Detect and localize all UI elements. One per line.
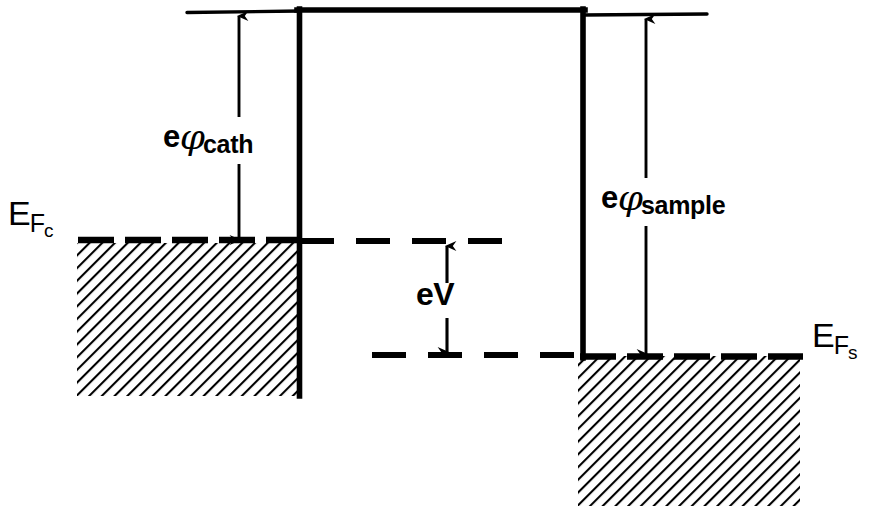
work-function-sample-prefix: e [601,180,618,215]
fermi-level-cathode-label: EFc [8,196,55,230]
vacuum-level-right-line [583,14,707,15]
fermi-level-sample-label: EFs [812,318,859,352]
bias-voltage-label: eV [416,278,454,310]
work-function-sample-phi-symbol: φ [618,177,643,218]
sample-hatched-block [578,356,800,506]
fermi-level-sample-subscript: F [834,331,849,359]
work-function-cathode-phi-symbol: φ [180,116,205,157]
band-diagram-canvas [0,0,869,522]
work-function-cathode-prefix: e [163,119,180,154]
work-function-cathode-subscript: cath [203,130,253,158]
fermi-level-sample-subsubscript: s [848,342,858,363]
work-function-cathode-label: eφcath [163,117,255,153]
fermi-level-cathode-subsubscript: c [44,220,54,241]
fermi-level-cathode-subscript: F [30,209,45,237]
vacuum-level-left-line [187,11,300,13]
cathode-hatched-block [77,243,298,396]
fermi-level-sample-base: E [812,316,835,354]
work-function-sample-subscript: sample [641,191,725,219]
work-function-sample-label: eφsample [601,178,727,214]
fermi-level-cathode-base: E [8,194,31,232]
energy-band-diagram: eφcath eφsample EFc EFs eV [0,0,869,522]
